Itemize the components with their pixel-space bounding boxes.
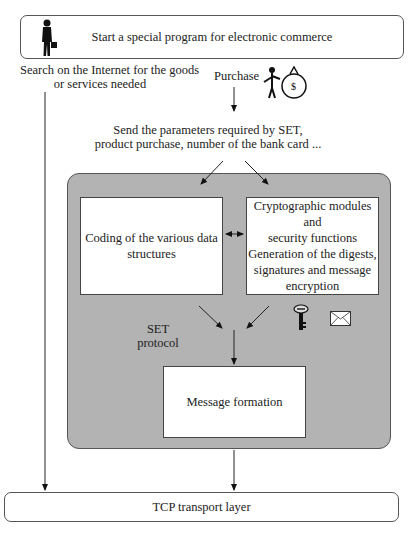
params-to-coding-arrow <box>201 161 223 184</box>
coding-to-message-arrow <box>199 306 222 328</box>
params-to-crypto-arrow <box>245 161 268 184</box>
arrows-layer <box>0 0 416 535</box>
crypto-to-message-arrow <box>247 306 269 328</box>
